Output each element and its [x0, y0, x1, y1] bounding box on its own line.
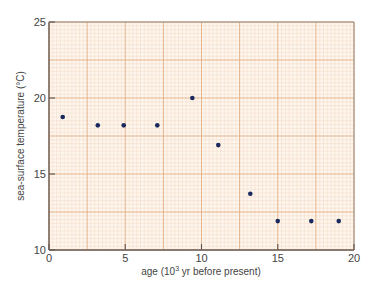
x-tick-label: 5: [122, 252, 128, 264]
y-tick-label: 10: [34, 244, 46, 256]
x-tick-label: 20: [348, 252, 360, 264]
data-point: [275, 219, 280, 224]
y-tick-labels: 10152025: [34, 16, 46, 256]
data-point: [336, 219, 341, 224]
data-point: [190, 96, 195, 101]
y-tick-label: 25: [34, 16, 46, 28]
scatter-chart: 05101520 10152025 age (103 yr before pre…: [0, 0, 381, 294]
data-point: [216, 143, 221, 148]
x-tick-label: 10: [195, 252, 207, 264]
data-point: [248, 191, 253, 196]
data-point: [155, 123, 160, 128]
y-tick-label: 15: [34, 168, 46, 180]
x-axis-label: age (103 yr before present): [141, 265, 261, 277]
data-point: [309, 219, 314, 224]
data-point: [121, 123, 126, 128]
x-tick-labels: 05101520: [46, 252, 360, 264]
data-point: [96, 123, 101, 128]
x-tick-label: 15: [272, 252, 284, 264]
x-tick-label: 0: [46, 252, 52, 264]
data-point: [60, 115, 65, 120]
y-tick-label: 20: [34, 92, 46, 104]
y-axis-label: sea-surface temperature (°C): [15, 71, 26, 201]
